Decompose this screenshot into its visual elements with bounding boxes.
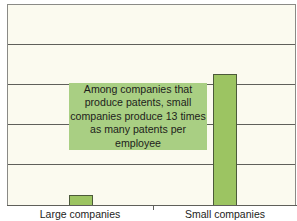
x-tick-label-large-companies: Large companies: [40, 208, 121, 220]
gridline: [8, 164, 295, 165]
x-tick-label-small-companies: Small companies: [185, 208, 265, 220]
annotation-box: Among companies that produce patents, sm…: [69, 83, 207, 150]
annotation-line: produce patents, small: [69, 96, 207, 110]
annotation-line: companies produce 13 times: [69, 110, 207, 124]
x-axis-tick: [153, 205, 154, 210]
gridline: [8, 44, 295, 45]
annotation-line: as many patents per employee: [69, 123, 207, 150]
x-axis: [7, 205, 297, 206]
bar-small-companies: [213, 74, 237, 206]
annotation-line: Among companies that: [69, 83, 207, 97]
